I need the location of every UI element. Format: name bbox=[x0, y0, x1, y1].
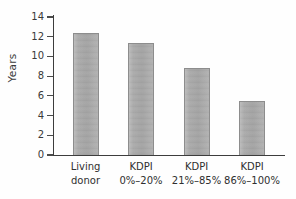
bar-chart: Years 02468101214 LivingdonorKDPI0%–20%K… bbox=[0, 0, 296, 199]
category-label-line: KDPI bbox=[207, 160, 296, 174]
bar bbox=[73, 33, 99, 155]
bar bbox=[239, 101, 265, 155]
x-axis-category-label: KDPI86%–100% bbox=[207, 160, 296, 187]
bar bbox=[128, 43, 154, 155]
bar bbox=[184, 68, 210, 155]
category-label-line: 86%–100% bbox=[207, 174, 296, 188]
